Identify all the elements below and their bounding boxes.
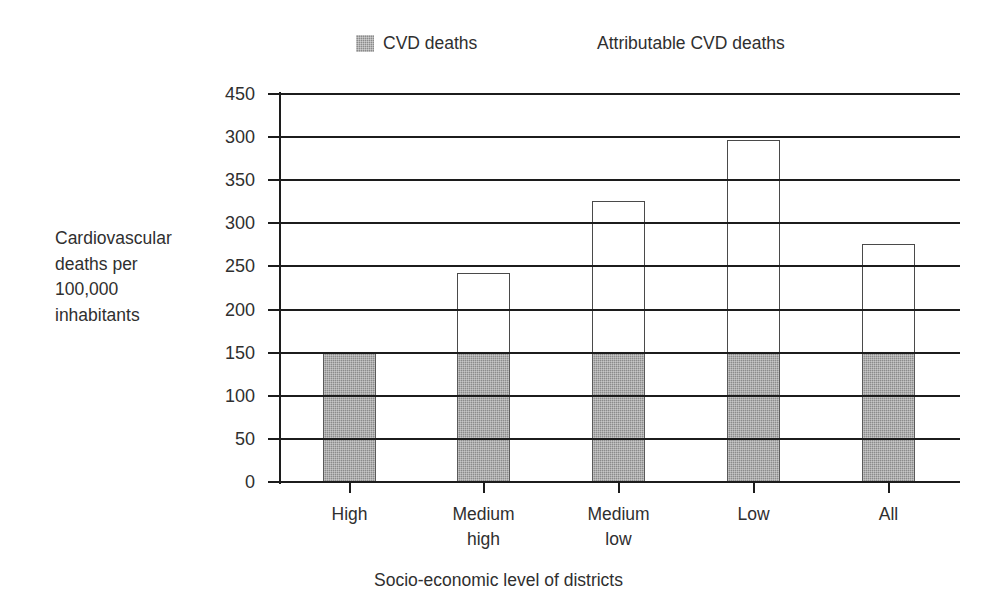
y-tick-label-2: 350	[185, 171, 255, 189]
category-label-line: Medium	[409, 502, 559, 527]
gridline-overlay-300	[279, 222, 960, 224]
gridline-overlay-250	[279, 265, 960, 267]
bar-segment-cvd-deaths	[323, 353, 376, 482]
legend-swatch-gray-square-icon	[356, 35, 374, 52]
gridline-overlay-150	[279, 352, 960, 354]
y-tick-label-8: 50	[185, 430, 255, 448]
category-label-line: All	[814, 502, 964, 527]
y-tick-label-5: 200	[185, 301, 255, 319]
legend-item-attributable-cvd-deaths: Attributable CVD deaths	[570, 34, 785, 53]
gridline-overlay-350	[279, 179, 960, 181]
bar-segment-attributable-cvd-deaths	[862, 244, 915, 353]
y-tick-label-1: 300	[185, 128, 255, 146]
bar-high	[323, 353, 376, 482]
x-axis-category-label-low: Low	[679, 502, 829, 527]
gridline-overlay-200	[279, 309, 960, 311]
bar-segment-cvd-deaths	[592, 353, 645, 482]
chart-figure: CVD deaths Attributable CVD deaths Cardi…	[0, 0, 997, 613]
x-axis-title: Socio-economic level of districts	[0, 570, 997, 590]
x-tick-mark-4	[888, 482, 890, 493]
y-tick-label-4: 250	[185, 257, 255, 275]
y-tick-label-3: 300	[185, 214, 255, 232]
bar-segment-cvd-deaths	[457, 353, 510, 482]
gridline-overlay-300	[279, 136, 960, 138]
gridline-overlay-0	[279, 481, 960, 483]
chart-legend: CVD deaths Attributable CVD deaths	[0, 34, 997, 64]
x-tick-mark-2	[618, 482, 620, 493]
category-label-line: Medium	[544, 502, 694, 527]
legend-label-attributable-cvd-deaths: Attributable CVD deaths	[597, 34, 785, 53]
legend-label-cvd-deaths: CVD deaths	[383, 34, 477, 53]
plot-area: 450300350300250200150100500 HighMediumhi…	[279, 94, 960, 482]
legend-swatch-white-square-icon	[570, 35, 588, 52]
x-tick-mark-1	[483, 482, 485, 493]
y-tick-label-0: 450	[185, 85, 255, 103]
x-axis-category-label-high: High	[275, 502, 425, 527]
category-label-line: high	[409, 527, 559, 552]
category-label-line: low	[544, 527, 694, 552]
bar-segment-cvd-deaths	[727, 353, 780, 482]
x-axis-category-label-medium-low: Mediumlow	[544, 502, 694, 552]
gridline-overlay-50	[279, 438, 960, 440]
category-label-line: High	[275, 502, 425, 527]
bar-segment-attributable-cvd-deaths	[727, 140, 780, 353]
y-axis-line	[279, 92, 281, 484]
gridline-overlay-450	[279, 93, 960, 95]
bar-segment-attributable-cvd-deaths	[457, 273, 510, 352]
x-tick-mark-0	[349, 482, 351, 493]
y-axis-title-line-3: 100,000	[55, 277, 220, 303]
bar-low	[727, 140, 780, 482]
x-axis-category-label-medium-high: Mediumhigh	[409, 502, 559, 552]
x-tick-mark-3	[753, 482, 755, 493]
bar-all	[862, 244, 915, 482]
gridline-overlay-100	[279, 395, 960, 397]
x-axis-category-label-all: All	[814, 502, 964, 527]
legend-item-cvd-deaths: CVD deaths	[356, 34, 477, 53]
y-tick-label-7: 100	[185, 387, 255, 405]
y-tick-label-6: 150	[185, 344, 255, 362]
category-label-line: Low	[679, 502, 829, 527]
bar-segment-cvd-deaths	[862, 353, 915, 482]
bar-medium-high	[457, 273, 510, 482]
y-tick-label-9: 0	[185, 473, 255, 491]
